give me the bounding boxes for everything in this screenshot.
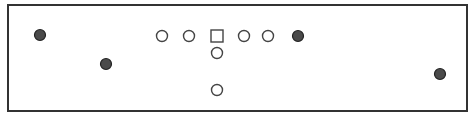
filled-circle-player (435, 69, 446, 80)
filled-circle-player (293, 31, 304, 42)
open-circle-player (212, 48, 223, 59)
open-circle-player (263, 31, 274, 42)
filled-circle-player (101, 59, 112, 70)
open-circle-player (239, 31, 250, 42)
open-circle-player (184, 31, 195, 42)
filled-circle-player (35, 30, 46, 41)
open-circle-player (212, 85, 223, 96)
open-circle-player (157, 31, 168, 42)
formation-diagram (0, 0, 475, 120)
center-square-marker (211, 30, 223, 42)
field-border (8, 5, 467, 111)
